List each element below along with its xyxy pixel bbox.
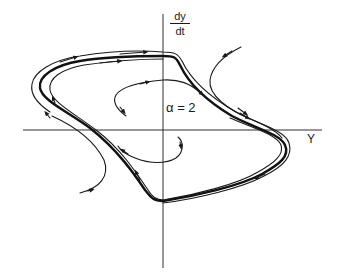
- horizontal-axis-label: Y: [307, 132, 315, 146]
- lower-left-trajectory: [52, 116, 106, 193]
- parameter-label: α = 2: [166, 100, 196, 115]
- arrow-icon: [46, 113, 50, 118]
- inner-lower-trajectory: [118, 137, 182, 163]
- axis-label-numerator: dy: [170, 10, 190, 24]
- arrow-icon: [180, 142, 181, 147]
- arrow-icon: [195, 88, 202, 94]
- arrow-icon: [240, 113, 248, 118]
- phase-portrait-diagram: [0, 0, 337, 280]
- arrow-icon: [120, 52, 146, 54]
- axis-label-denominator: dt: [170, 24, 190, 37]
- vertical-axis-label: dy dt: [170, 10, 190, 37]
